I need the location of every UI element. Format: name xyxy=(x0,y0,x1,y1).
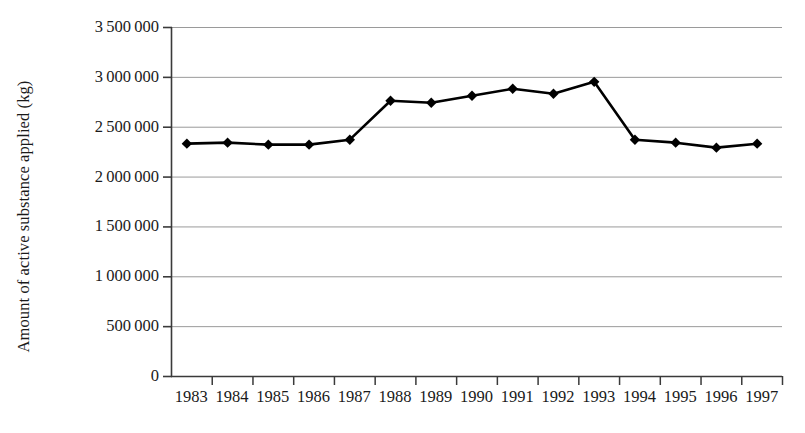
x-axis-tick-label: 1994 xyxy=(623,389,656,406)
x-axis-tick-label: 1988 xyxy=(379,389,412,406)
x-axis-tick-label: 1990 xyxy=(460,389,493,406)
chart-figure: Amount of active substance applied (kg) … xyxy=(0,0,805,433)
x-axis-tick-label: 1995 xyxy=(664,389,697,406)
x-axis-tick-label: 1987 xyxy=(338,389,371,406)
x-axis-tick-label: 1986 xyxy=(297,389,330,406)
x-axis-tick-label: 1985 xyxy=(256,389,289,406)
x-axis-tick-label: 1984 xyxy=(216,389,249,406)
x-axis-tick-label: 1996 xyxy=(704,389,737,406)
x-axis-tick-label: 1991 xyxy=(501,389,534,406)
x-axis-tick-label: 1983 xyxy=(175,389,208,406)
x-axis-tick-label: 1993 xyxy=(582,389,615,406)
x-axis-tick-label: 1992 xyxy=(541,389,574,406)
x-axis-tick-label: 1989 xyxy=(419,389,452,406)
x-axis-tick-label: 1997 xyxy=(745,389,778,406)
x-axis-tick-labels: 1983198419851986198719881989199019911992… xyxy=(0,0,805,433)
